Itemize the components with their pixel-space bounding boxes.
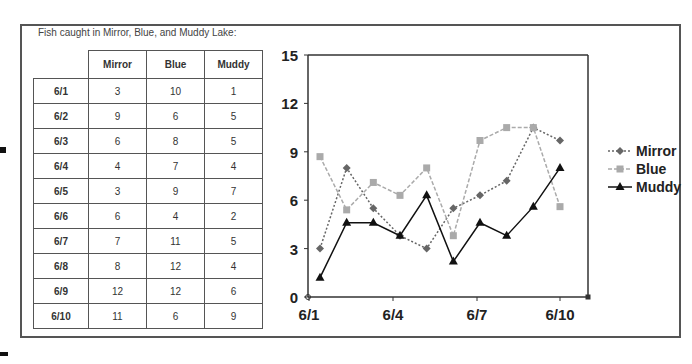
series-line-muddy bbox=[320, 168, 560, 278]
data-point-muddy bbox=[556, 163, 565, 171]
data-point-blue bbox=[450, 232, 457, 239]
corner-marker bbox=[586, 295, 591, 300]
y-tick-label: 6 bbox=[290, 192, 298, 209]
data-point-blue bbox=[370, 179, 377, 186]
legend-label: Muddy bbox=[636, 179, 681, 195]
y-tick-label: 15 bbox=[281, 47, 298, 64]
data-point-blue bbox=[343, 206, 350, 213]
data-point-blue bbox=[530, 124, 537, 131]
y-tick-label: 0 bbox=[290, 289, 298, 306]
x-tick-label: 6/10 bbox=[545, 306, 574, 323]
data-point-muddy bbox=[422, 190, 431, 198]
x-tick-label: 6/4 bbox=[383, 306, 405, 323]
data-point-mirror bbox=[503, 177, 511, 185]
data-point-mirror bbox=[423, 245, 431, 253]
legend-item-mirror: Mirror bbox=[608, 142, 681, 160]
data-point-mirror bbox=[449, 204, 457, 212]
data-point-mirror bbox=[316, 245, 324, 253]
data-point-mirror bbox=[556, 137, 564, 145]
y-tick-label: 3 bbox=[290, 241, 298, 258]
data-point-muddy bbox=[369, 218, 378, 226]
data-point-blue bbox=[317, 153, 324, 160]
x-tick-label: 6/1 bbox=[299, 306, 320, 323]
line-chart: 036912156/16/46/76/10 bbox=[0, 0, 692, 364]
data-point-blue bbox=[397, 192, 404, 199]
data-point-blue bbox=[557, 203, 564, 210]
data-point-mirror bbox=[476, 191, 484, 199]
legend-triangle-icon bbox=[608, 180, 632, 194]
chart-legend: MirrorBlueMuddy bbox=[608, 142, 681, 196]
x-tick-label: 6/7 bbox=[467, 306, 488, 323]
legend-item-blue: Blue bbox=[608, 160, 681, 178]
y-tick-label: 12 bbox=[281, 95, 298, 112]
data-point-blue bbox=[477, 137, 484, 144]
y-tick-label: 9 bbox=[290, 144, 298, 161]
legend-square-icon bbox=[608, 162, 632, 176]
series-line-mirror bbox=[320, 128, 560, 249]
data-point-muddy bbox=[342, 218, 351, 226]
data-point-blue bbox=[423, 164, 430, 171]
data-point-muddy bbox=[316, 273, 325, 281]
data-point-muddy bbox=[476, 218, 485, 226]
legend-label: Blue bbox=[636, 161, 666, 177]
data-point-blue bbox=[503, 124, 510, 131]
legend-label: Mirror bbox=[636, 143, 676, 159]
legend-item-muddy: Muddy bbox=[608, 178, 681, 196]
data-point-mirror bbox=[343, 164, 351, 172]
legend-diamond-icon bbox=[608, 144, 632, 158]
